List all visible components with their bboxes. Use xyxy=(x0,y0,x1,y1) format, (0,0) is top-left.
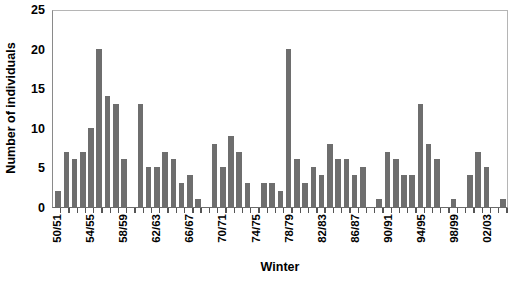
bar xyxy=(88,128,94,207)
bar xyxy=(278,191,284,207)
x-label-slot: 54/55 xyxy=(86,213,94,257)
bar xyxy=(121,159,127,207)
x-label-slot xyxy=(61,213,69,257)
bar-slot xyxy=(449,11,457,207)
bar-slot xyxy=(79,11,87,207)
bar xyxy=(269,183,275,207)
bar-slot xyxy=(87,11,95,207)
bar xyxy=(286,49,292,207)
bar-slot xyxy=(161,11,169,207)
bar xyxy=(220,167,226,207)
bars-layer xyxy=(53,11,507,207)
x-label-slot xyxy=(458,213,466,257)
bar xyxy=(146,167,152,207)
x-label-slot: 70/71 xyxy=(218,213,226,257)
bar xyxy=(212,144,218,207)
bar-slot xyxy=(276,11,284,207)
bar xyxy=(113,104,119,207)
x-label-slot xyxy=(301,213,309,257)
x-label-slot: 82/83 xyxy=(318,213,326,257)
bar-slot xyxy=(400,11,408,207)
bar-slot xyxy=(416,11,424,207)
bar-slot xyxy=(375,11,383,207)
bar xyxy=(319,175,325,207)
x-label-slot: 74/75 xyxy=(251,213,259,257)
bar xyxy=(138,104,144,207)
x-label-slot: 90/91 xyxy=(384,213,392,257)
bar xyxy=(401,175,407,207)
x-label-slot: 02/03 xyxy=(483,213,491,257)
bar-slot xyxy=(285,11,293,207)
x-label-slot: 58/59 xyxy=(119,213,127,257)
bar-chart: Number of individuals 0510152025 50/5154… xyxy=(0,0,520,286)
bar-slot xyxy=(392,11,400,207)
x-label-slot xyxy=(425,213,433,257)
bar xyxy=(261,183,267,207)
bar xyxy=(393,159,399,207)
bar xyxy=(376,199,382,207)
bar xyxy=(352,175,358,207)
y-tick-label: 20 xyxy=(31,43,45,57)
bar-slot xyxy=(112,11,120,207)
bar-slot xyxy=(499,11,507,207)
x-label-slot xyxy=(499,213,507,257)
x-label-slot: 78/79 xyxy=(284,213,292,257)
y-tick-label: 15 xyxy=(31,82,45,96)
bar xyxy=(451,199,457,207)
bar-slot xyxy=(252,11,260,207)
bar xyxy=(80,152,86,207)
x-label-slot: 98/99 xyxy=(450,213,458,257)
bar-slot xyxy=(474,11,482,207)
x-label-slot xyxy=(94,213,102,257)
bar-slot xyxy=(128,11,136,207)
bar-slot xyxy=(95,11,103,207)
bar-slot xyxy=(202,11,210,207)
bar xyxy=(409,175,415,207)
bar-slot xyxy=(433,11,441,207)
bar-slot xyxy=(293,11,301,207)
bar-slot xyxy=(210,11,218,207)
bar xyxy=(335,159,341,207)
x-label-slot: 86/87 xyxy=(351,213,359,257)
y-tick-label: 10 xyxy=(31,122,45,136)
bar-slot xyxy=(145,11,153,207)
y-axis-title-label: Number of individuals xyxy=(4,42,18,173)
bar xyxy=(72,159,78,207)
bar-slot xyxy=(186,11,194,207)
x-label-slot xyxy=(202,213,210,257)
y-tick-label: 0 xyxy=(38,201,45,215)
x-label-slot xyxy=(160,213,168,257)
bar-slot xyxy=(490,11,498,207)
bar-slot xyxy=(268,11,276,207)
bar-slot xyxy=(235,11,243,207)
bar-slot xyxy=(342,11,350,207)
bar xyxy=(344,159,350,207)
x-label-slot xyxy=(136,213,144,257)
bar xyxy=(426,144,432,207)
bar-slot xyxy=(62,11,70,207)
y-axis-tick-labels: 0510152025 xyxy=(22,0,48,215)
x-label-slot xyxy=(400,213,408,257)
y-tick-label: 5 xyxy=(38,161,45,175)
x-label-slot xyxy=(491,213,499,257)
bar-slot xyxy=(359,11,367,207)
bar-slot xyxy=(334,11,342,207)
x-label-slot xyxy=(260,213,268,257)
bar xyxy=(236,152,242,207)
bar-slot xyxy=(301,11,309,207)
x-label-slot xyxy=(433,213,441,257)
bar xyxy=(171,159,177,207)
bar-slot xyxy=(54,11,62,207)
x-label-slot: 94/95 xyxy=(417,213,425,257)
bar-slot xyxy=(243,11,251,207)
x-label-slot: 66/67 xyxy=(185,213,193,257)
x-label-slot xyxy=(235,213,243,257)
bar-slot xyxy=(425,11,433,207)
x-label-slot xyxy=(268,213,276,257)
x-label-slot xyxy=(367,213,375,257)
x-label-slot xyxy=(103,213,111,257)
bar-slot xyxy=(70,11,78,207)
bar-slot xyxy=(350,11,358,207)
x-axis-tick-labels: 50/5154/5558/5962/6366/6770/7174/7578/79… xyxy=(52,213,508,257)
x-label-slot xyxy=(169,213,177,257)
